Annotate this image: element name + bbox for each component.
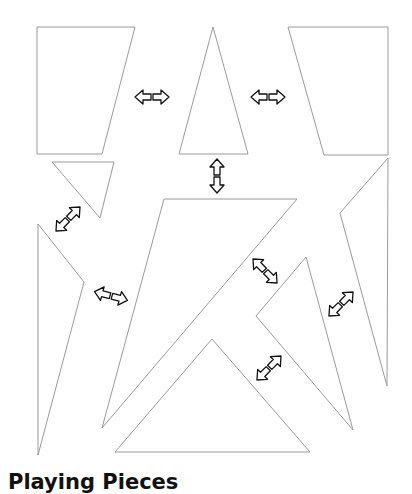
- piece-right-trapezoid[interactable]: [288, 27, 388, 155]
- move-handle-8-icon[interactable]: [252, 351, 286, 385]
- caption-title: Playing Pieces: [8, 470, 178, 494]
- piece-left-long-sliver[interactable]: [38, 224, 84, 455]
- move-handle-7-icon[interactable]: [324, 287, 358, 321]
- piece-small-left-triangle[interactable]: [52, 162, 114, 218]
- move-handle-5-icon[interactable]: [93, 285, 129, 307]
- move-handle-2-icon[interactable]: [251, 90, 285, 104]
- piece-left-trapezoid[interactable]: [37, 27, 135, 154]
- move-handle-4-icon[interactable]: [51, 202, 85, 236]
- move-handle-1-icon[interactable]: [135, 90, 169, 104]
- piece-large-triangle[interactable]: [102, 199, 297, 428]
- piece-right-sliver[interactable]: [340, 158, 388, 386]
- move-handle-6-icon[interactable]: [248, 254, 282, 288]
- move-handle-3-icon[interactable]: [210, 159, 224, 193]
- piece-center-tall-triangle[interactable]: [179, 27, 248, 154]
